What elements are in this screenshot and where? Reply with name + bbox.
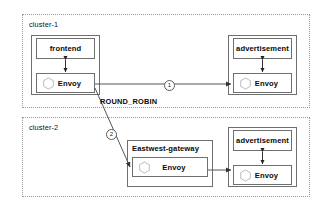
diagram-canvas: cluster-1 frontend Envoy advertisement E… [0,0,330,212]
edge-2-marker: 2 [106,129,117,140]
round-robin-annotation: ROUND_ROBIN [100,97,157,106]
diagram-edges [0,0,330,212]
edge-1-marker: 1 [164,80,175,91]
